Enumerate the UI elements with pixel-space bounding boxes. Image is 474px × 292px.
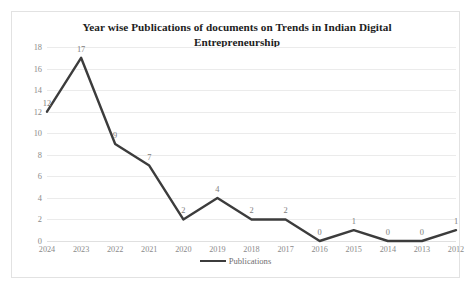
- series-publications: [47, 47, 456, 241]
- y-axis-tick-label: 4: [38, 193, 42, 202]
- legend-swatch-publications: [200, 260, 226, 262]
- x-axis-tick-label: 2023: [73, 245, 89, 254]
- y-axis-tick-label: 12: [34, 107, 42, 116]
- x-axis-tick-label: 2015: [346, 245, 362, 254]
- x-axis-tick-label: 2019: [209, 245, 225, 254]
- x-axis-tick-label: 2018: [243, 245, 259, 254]
- y-axis-tick-label: 10: [34, 129, 42, 138]
- line-path-publications: [47, 58, 456, 241]
- legend-label-publications: Publications: [229, 256, 272, 266]
- y-axis-tick-label: 16: [34, 64, 42, 73]
- y-axis-tick-label: 6: [38, 172, 42, 181]
- chart-legend: Publications: [12, 256, 459, 266]
- x-axis-tick-label: 2022: [107, 245, 123, 254]
- x-axis-tick-label: 2021: [141, 245, 157, 254]
- y-axis-tick-label: 2: [38, 215, 42, 224]
- chart-container: Year wise Publications of documents on T…: [11, 11, 460, 278]
- x-axis-tick-label: 2012: [448, 245, 464, 254]
- y-axis-tick-label: 8: [38, 150, 42, 159]
- y-axis-tick-label: 14: [34, 86, 42, 95]
- y-axis-tick-label: 18: [34, 43, 42, 52]
- x-axis-tick-label: 2017: [277, 245, 293, 254]
- x-axis-tick-label: 2013: [414, 245, 430, 254]
- chart-title: Year wise Publications of documents on T…: [52, 20, 422, 50]
- x-axis-tick-label: 2024: [39, 245, 55, 254]
- x-axis-tick-label: 2020: [175, 245, 191, 254]
- x-axis-tick-label: 2016: [311, 245, 327, 254]
- plot-area: 024681012141618 202420232022202120202019…: [47, 47, 456, 241]
- chart-title-line-1: Year wise Publications of documents on T…: [52, 20, 422, 35]
- x-axis-tick-label: 2014: [380, 245, 396, 254]
